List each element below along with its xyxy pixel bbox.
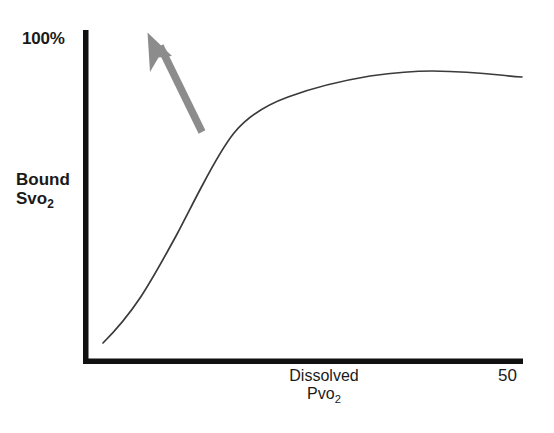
- x-axis-title-line1: Dissolved: [289, 367, 358, 384]
- x-axis-title: Dissolved Pvo2: [244, 367, 404, 405]
- y-axis-title: Bound Svo2: [16, 170, 70, 211]
- y-axis-max-label: 100%: [22, 29, 65, 48]
- x-axis-max-label: 50: [498, 366, 517, 385]
- y-axis-title-line1: Bound: [16, 170, 70, 189]
- y-axis-line: [83, 30, 89, 364]
- dissociation-curve: [103, 71, 522, 343]
- x-axis-line: [83, 359, 523, 365]
- x-axis-title-line2-text: Pvo: [307, 385, 335, 402]
- oxyhemoglobin-dissociation-figure: 100% Bound Svo2 Dissolved Pvo2 50: [0, 0, 554, 433]
- upward-shift-arrow: [148, 33, 203, 133]
- y-axis-title-line2: Svo2: [16, 189, 70, 211]
- y-axis-title-subscript: 2: [47, 197, 54, 211]
- arrow-shaft: [160, 46, 202, 132]
- y-axis-title-line2-text: Svo: [16, 189, 47, 208]
- x-axis-title-line2: Pvo2: [244, 385, 404, 405]
- x-axis-title-subscript: 2: [335, 392, 341, 404]
